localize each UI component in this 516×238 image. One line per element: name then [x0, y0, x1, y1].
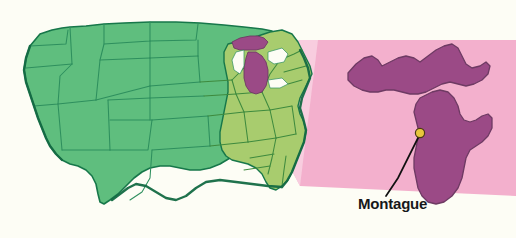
montague-label: Montague — [358, 196, 427, 211]
locator-map-figure: Montague — [0, 0, 516, 238]
map-canvas — [0, 0, 516, 238]
